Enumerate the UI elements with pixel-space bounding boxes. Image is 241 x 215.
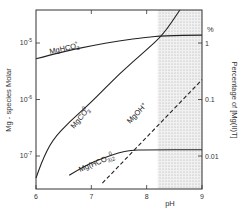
y-tick-label: 10-6 <box>20 94 32 103</box>
series-label-3: MgOH+ <box>124 101 148 126</box>
y-tick-label: 10-5 <box>20 37 32 46</box>
y-tick-label: 10-7 <box>20 150 32 159</box>
x-tick-label: 7 <box>89 193 93 200</box>
right-tick-label: 0.1 <box>205 96 215 103</box>
x-axis-title: pH <box>165 199 175 208</box>
series-label-1: MgCO30 <box>67 104 92 131</box>
right-tick-label: 0.01 <box>205 153 219 160</box>
x-tick-label: 8 <box>145 193 149 200</box>
y-axis-title: Mg - species Molar <box>4 68 13 132</box>
right-tick-label: 1 <box>205 40 209 47</box>
right-axis-title: Percentage of [Mg(II)T] <box>230 61 239 138</box>
shaded-region <box>158 10 202 189</box>
right-axis-unit: % <box>207 25 214 34</box>
series-labels: MgHCO3+MgCO30Mg(HCO3)20MgOH+ <box>48 39 149 175</box>
x-tick-label: 9 <box>200 193 204 200</box>
series-label-0: MgHCO3+ <box>48 39 80 57</box>
chart: 678910-510-610-710.10.01 MgHCO3+MgCO30Mg… <box>0 0 241 215</box>
series-label-2: Mg(HCO3)20 <box>77 150 116 175</box>
x-tick-label: 6 <box>34 193 38 200</box>
